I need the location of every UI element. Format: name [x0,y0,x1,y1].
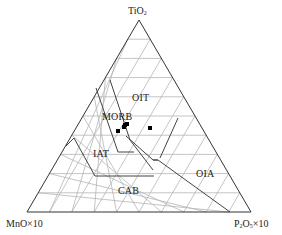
sample-point [116,129,120,133]
region-label-cab: CAB [118,186,139,196]
vertex-label-tio2: TiO2 [128,6,147,16]
sample-point [148,126,152,130]
grid-line [61,154,184,212]
grid-line [229,193,240,212]
region-label-iat: IAT [93,149,109,159]
field-boundary-line [158,160,230,212]
region-label-morb: MORB [102,112,132,122]
ternary-diagram [0,0,282,235]
field-boundary-line [160,118,178,158]
region-label-oit: OIT [132,93,149,103]
field-boundary-line [126,136,153,160]
sample-point [122,125,126,129]
grid-line [184,154,218,212]
region-label-oia: OIA [196,169,214,179]
vertex-label-mno: MnO×10 [6,219,43,229]
vertex-label-p2o5: P2O5×10 [234,219,268,229]
